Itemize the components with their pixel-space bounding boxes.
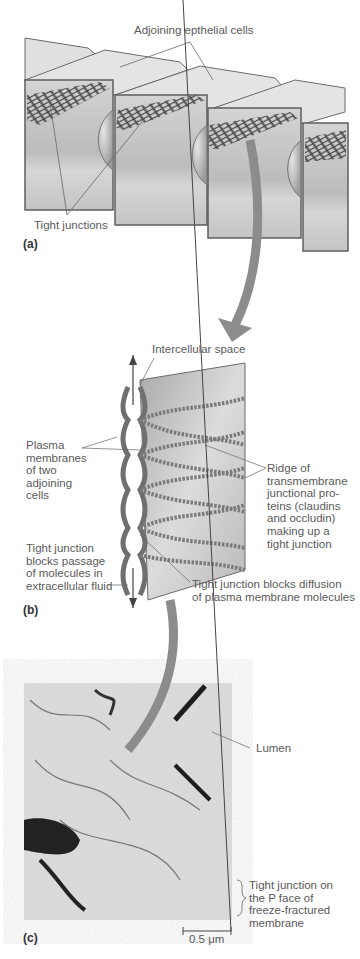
label-ridge: Ridge of transmembrane junctional pro- t… <box>267 462 348 550</box>
panel-b-tag: (b) <box>23 603 38 617</box>
label-intercellular-space: Intercellular space <box>152 343 245 356</box>
scale-bar-label: 0.5 μm <box>189 933 224 946</box>
label-p-face: Tight junction on the P face of freeze-f… <box>249 879 333 929</box>
panel-a-tag: (a) <box>23 237 38 251</box>
label-lumen: Lumen <box>256 742 291 755</box>
label-adjoining-cells: Adjoining epthelial cells <box>134 24 254 37</box>
label-tight-junctions: Tight junctions <box>34 219 108 232</box>
label-blocks-passage: Tight junction blocks passage of molecul… <box>26 542 112 592</box>
label-plasma-membranes: Plasma membranes of two adjoining cells <box>26 439 87 502</box>
panel-c-tag: (c) <box>23 931 38 945</box>
label-blocks-diffusion: Tight junction blocks diffusion of plasm… <box>192 578 355 603</box>
